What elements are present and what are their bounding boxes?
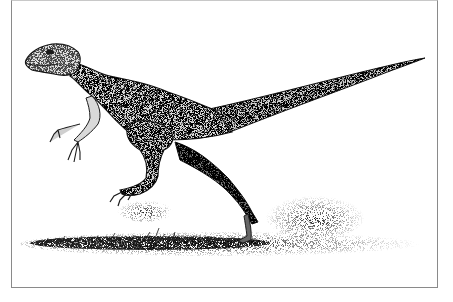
ground-patch (20, 228, 420, 256)
arms (50, 96, 100, 162)
eye (46, 50, 54, 55)
near-hand-claws (68, 142, 80, 162)
tail (205, 58, 425, 132)
near-hind-leg (110, 121, 173, 206)
dinosaur-illustration (0, 0, 453, 302)
far-hind-leg (175, 142, 258, 243)
head (25, 44, 80, 76)
